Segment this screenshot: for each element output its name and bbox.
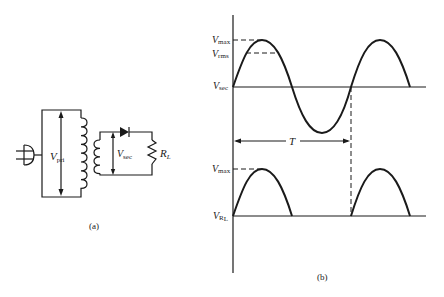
rectified-wave <box>233 169 410 216</box>
primary-coil-icon <box>81 118 87 189</box>
load-resistor-icon <box>148 140 156 164</box>
bottom-vmax-label: Vmax <box>212 163 231 175</box>
ac-plug-icon <box>16 145 42 165</box>
secondary-coil-icon <box>94 140 100 174</box>
top-vrms-label: Vrms <box>212 48 229 60</box>
v-pri-label: Vpri <box>50 150 65 164</box>
v-sec-label: Vsec <box>117 148 132 161</box>
top-vsec-axis-label: Vsec <box>213 80 228 92</box>
half-wave-rectifier-figure: Vpri Vsec RL (a) <box>0 0 444 297</box>
top-vmax-label: Vmax <box>212 34 231 46</box>
waveform-plots: T Vmax Vrms Vsec Vmax VRL (b) <box>212 15 426 282</box>
r-load-label: RL <box>159 147 171 161</box>
caption-a: (a) <box>89 221 99 231</box>
secondary-circuit <box>94 127 156 175</box>
primary-circuit <box>42 110 87 197</box>
diode-icon <box>120 127 129 137</box>
caption-b: (b) <box>317 272 328 282</box>
circuit-diagram: Vpri Vsec RL (a) <box>16 110 171 231</box>
bottom-vrl-axis-label: VRL <box>213 210 228 223</box>
bottom-plot-load-voltage: Vmax VRL <box>212 163 426 223</box>
period-label: T <box>289 135 296 147</box>
